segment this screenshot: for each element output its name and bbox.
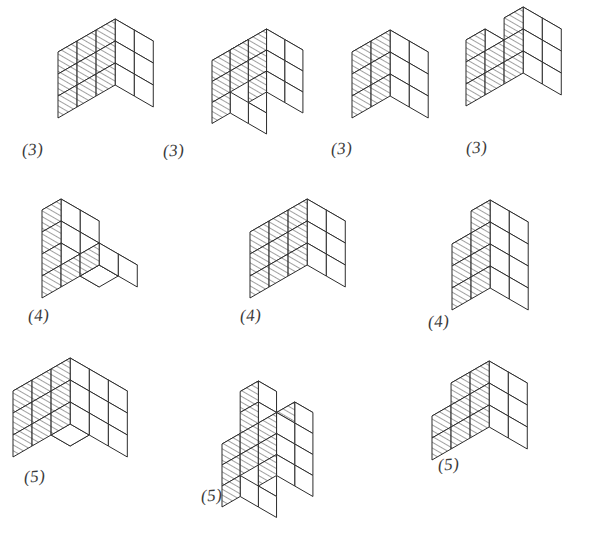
figure-label-6: (4): [239, 305, 262, 326]
figure-7: [448, 196, 532, 336]
figure-6: [246, 195, 349, 324]
figure-label-4: (3): [465, 137, 488, 158]
figure-label-9: (5): [200, 485, 223, 506]
figure-1: [54, 15, 157, 144]
figure-2: [208, 25, 307, 149]
figure-label-10: (5): [437, 454, 460, 475]
figure-label-8: (5): [23, 466, 46, 487]
figure-label-5: (4): [27, 305, 50, 326]
figure-label-1: (3): [21, 139, 44, 160]
figure-label-7: (4): [427, 311, 450, 332]
figure-9: [218, 377, 317, 532]
figure-sheet: (3)(3)(3)(3)(4)(4)(4)(5)(5)(5): [0, 0, 598, 540]
figure-4: [462, 3, 565, 132]
figure-label-3: (3): [330, 138, 353, 159]
figure-5: [38, 195, 141, 324]
figure-3: [348, 26, 432, 144]
figure-label-2: (3): [162, 140, 185, 161]
